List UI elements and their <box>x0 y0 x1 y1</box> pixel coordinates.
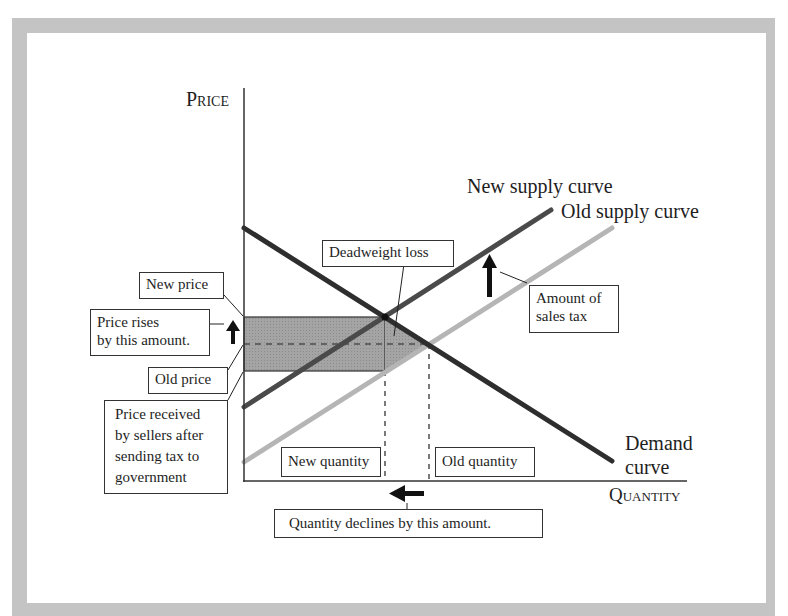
demand-label-line2: curve <box>625 456 669 479</box>
deadweight-loss-box: Deadweight loss <box>322 240 454 267</box>
sales-tax-box: Amount of sales tax <box>529 285 619 333</box>
new-supply-label: New supply curve <box>467 175 613 198</box>
old-price-text: Old price <box>155 371 211 387</box>
sales-tax-text-1: Amount of <box>536 289 612 307</box>
price-rises-text-2: by this amount. <box>97 331 203 349</box>
price-rises-box: Price rises by this amount. <box>90 309 210 356</box>
old-supply-label: Old supply curve <box>561 200 699 223</box>
new-price-box: New price <box>139 272 224 299</box>
y-axis-label: Price <box>186 88 229 111</box>
new-equilibrium-point <box>382 314 389 321</box>
new-quantity-box: New quantity <box>281 447 381 477</box>
sales-tax-text-2: sales tax <box>536 307 612 325</box>
quantity-declines-box: Quantity declines by this amount. <box>274 509 543 538</box>
new-price-text: New price <box>146 276 208 292</box>
old-price-box: Old price <box>148 367 228 394</box>
price-rise-arrow-icon <box>226 320 240 344</box>
price-rises-text-1: Price rises <box>97 313 203 331</box>
old-quantity-text: Old quantity <box>442 453 517 469</box>
quantity-declines-text: Quantity declines by this amount. <box>289 515 491 531</box>
new-quantity-text: New quantity <box>288 453 369 469</box>
sales-tax-arrow-icon <box>482 254 497 297</box>
price-received-text-2: by sellers after <box>115 425 227 446</box>
price-received-text-3: sending tax to <box>115 446 227 467</box>
quantity-decline-arrow-icon <box>389 485 424 502</box>
price-received-text-1: Price received <box>115 404 227 425</box>
demand-label-line1: Demand <box>625 432 693 455</box>
deadweight-loss-text: Deadweight loss <box>329 244 429 260</box>
old-quantity-box: Old quantity <box>435 447 535 477</box>
price-received-box: Price received by sellers after sending … <box>104 400 228 494</box>
x-axis-label: Quantity <box>609 484 681 506</box>
price-received-text-4: government <box>115 467 227 488</box>
